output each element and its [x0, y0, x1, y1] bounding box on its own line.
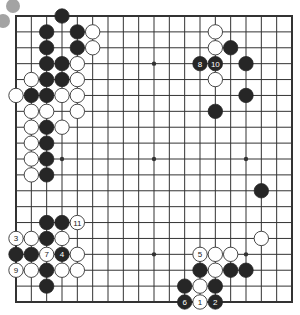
white-stone: [24, 152, 38, 166]
black-stone: [55, 56, 69, 70]
white-stone: [208, 41, 222, 55]
move-number: 8: [198, 60, 203, 69]
black-stone: [39, 152, 53, 166]
black-stone: [254, 184, 268, 198]
black-stone: [39, 25, 53, 39]
black-stone: [208, 104, 222, 118]
black-stone: [208, 279, 222, 293]
black-stone: [239, 88, 253, 102]
star-point: [244, 157, 248, 161]
black-stone: [223, 41, 237, 55]
decor-circle: [6, 0, 20, 13]
move-number: 5: [198, 250, 203, 259]
black-stone: [24, 88, 38, 102]
black-stone-numbered: 2: [208, 295, 222, 309]
black-stone: [70, 25, 84, 39]
white-stone: [39, 104, 53, 118]
black-stone: [39, 41, 53, 55]
black-stone: [70, 41, 84, 55]
black-stone-numbered: 4: [55, 247, 69, 261]
white-stone-numbered: 5: [193, 247, 207, 261]
white-stone: [208, 263, 222, 277]
white-stone: [70, 72, 84, 86]
white-stone: [55, 88, 69, 102]
white-stone-numbered: 11: [70, 215, 84, 229]
star-point: [60, 157, 64, 161]
black-stone: [239, 263, 253, 277]
white-stone: [24, 136, 38, 150]
white-stone: [55, 231, 69, 245]
white-stone: [24, 120, 38, 134]
white-stone: [208, 247, 222, 261]
move-number: 10: [211, 60, 220, 69]
black-stone: [39, 263, 53, 277]
black-stone: [39, 136, 53, 150]
star-point: [152, 252, 156, 256]
white-stone: [208, 72, 222, 86]
white-stone: [55, 120, 69, 134]
black-stone: [39, 215, 53, 229]
star-point: [244, 252, 248, 256]
star-point: [152, 61, 156, 65]
white-stone: [24, 104, 38, 118]
black-stone: [55, 72, 69, 86]
black-stone: [39, 88, 53, 102]
white-stone-numbered: 3: [9, 231, 23, 245]
move-number: 9: [14, 266, 19, 275]
white-stone: [85, 41, 99, 55]
black-stone: [193, 263, 207, 277]
white-stone: [55, 263, 69, 277]
white-stone-numbered: 9: [9, 263, 23, 277]
black-stone: [39, 120, 53, 134]
white-stone: [24, 72, 38, 86]
black-stone: [239, 56, 253, 70]
white-stone-numbered: 1: [193, 295, 207, 309]
black-stone: [55, 9, 69, 23]
black-stone-numbered: 6: [177, 295, 191, 309]
move-number: 2: [213, 298, 218, 307]
white-stone-numbered: 7: [39, 247, 53, 261]
white-stone: [70, 263, 84, 277]
white-stone: [70, 247, 84, 261]
decor-circle: [0, 14, 10, 28]
black-stone: [177, 279, 191, 293]
white-stone: [208, 25, 222, 39]
white-stone: [223, 247, 237, 261]
black-stone: [39, 168, 53, 182]
move-number: 1: [198, 298, 203, 307]
black-stone: [24, 247, 38, 261]
black-stone-numbered: 8: [193, 56, 207, 70]
black-stone: [39, 56, 53, 70]
black-stone: [39, 279, 53, 293]
white-stone: [85, 25, 99, 39]
move-number: 3: [14, 234, 19, 243]
move-number: 11: [73, 219, 82, 228]
white-stone: [70, 56, 84, 70]
go-board-diagram: 4810621137951: [0, 0, 300, 315]
white-stone: [24, 263, 38, 277]
move-number: 4: [60, 250, 65, 259]
black-stone: [223, 263, 237, 277]
white-stone: [254, 231, 268, 245]
black-stone: [39, 72, 53, 86]
go-board: 4810621137951: [0, 0, 300, 315]
black-stone-numbered: 10: [208, 56, 222, 70]
white-stone: [24, 231, 38, 245]
black-stone: [39, 231, 53, 245]
white-stone: [70, 104, 84, 118]
black-stone: [9, 247, 23, 261]
move-number: 7: [44, 250, 49, 259]
white-stone: [193, 279, 207, 293]
black-stone: [55, 215, 69, 229]
white-stone: [9, 88, 23, 102]
white-stone: [24, 168, 38, 182]
move-number: 6: [182, 298, 187, 307]
star-point: [152, 157, 156, 161]
white-stone: [70, 88, 84, 102]
